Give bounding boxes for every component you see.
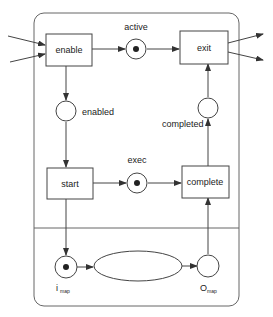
outgoing-arc-2: [228, 52, 263, 60]
place-exec-label: exec: [127, 155, 147, 165]
token-icon: [63, 264, 69, 270]
subnet-ellipse[interactable]: [94, 251, 182, 281]
place-enabled-label: enabled: [82, 107, 114, 117]
place-o-map[interactable]: O map: [197, 255, 219, 294]
transition-enable[interactable]: enable: [46, 34, 92, 66]
transition-start-label: start: [61, 179, 79, 189]
incoming-arc-1: [8, 36, 45, 45]
place-o-map-label: O: [200, 283, 207, 293]
place-active-label: active: [124, 22, 148, 32]
transition-enable-label: enable: [55, 45, 82, 55]
incoming-arc-2: [10, 54, 45, 62]
token-icon: [134, 180, 140, 186]
place-completed-label: completed: [162, 119, 204, 129]
transition-start[interactable]: start: [47, 168, 93, 199]
place-enabled[interactable]: enabled: [56, 101, 114, 121]
token-icon: [133, 46, 139, 52]
transition-exit[interactable]: exit: [180, 31, 228, 64]
transition-exit-label: exit: [197, 43, 212, 53]
place-i-map-sublabel: map: [60, 288, 70, 294]
transition-complete[interactable]: complete: [182, 166, 229, 198]
petri-net-diagram: enable exit start complete active enable…: [0, 0, 273, 317]
place-i-map[interactable]: i map: [55, 256, 77, 294]
outgoing-arc-1: [228, 34, 263, 43]
place-active[interactable]: active: [124, 22, 148, 59]
place-o-map-sublabel: map: [207, 288, 217, 294]
place-exec[interactable]: exec: [127, 155, 147, 193]
transition-complete-label: complete: [187, 177, 224, 187]
place-completed[interactable]: completed: [162, 98, 218, 129]
place-i-map-label: i: [56, 283, 58, 293]
